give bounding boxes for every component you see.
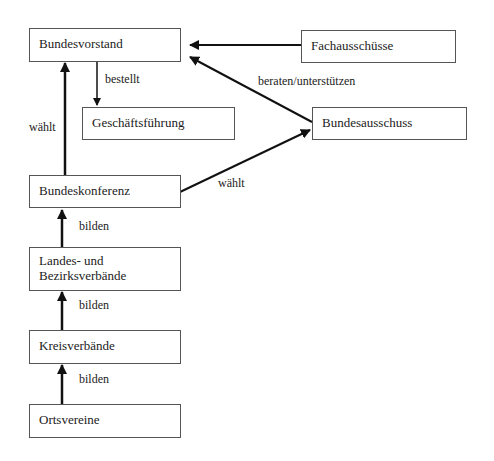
node-landes-bezirksverbaende: Landes- und Bezirksverbände [29,247,181,291]
node-fachausschuesse: Fachausschüsse [301,30,456,63]
node-label: Bundesausschuss [322,115,412,130]
node-bundeskonferenz: Bundeskonferenz [29,175,181,208]
edge-label-waehlt-left: wählt [29,120,56,135]
edge-label-bilden-3: bilden [79,372,109,387]
connector-arrows [0,0,494,461]
node-label: Ortsvereine [39,412,100,427]
edge-label-bilden-2: bilden [79,298,109,313]
node-bundesvorstand: Bundesvorstand [29,28,181,62]
edge-label-beraten: beraten/unterstützen [258,74,355,89]
node-label: Geschäftsführung [92,115,184,130]
edge-label-waehlt-right: wählt [218,176,245,191]
node-label-line2: Bezirksverbände [39,268,180,283]
node-label: Kreisverbände [39,338,115,353]
edge-label-bilden-1: bilden [79,219,109,234]
node-label: Bundeskonferenz [39,183,130,198]
node-label-line1: Landes- und [39,253,180,268]
node-bundesausschuss: Bundesausschuss [312,107,467,140]
node-label: Bundesvorstand [39,36,123,51]
node-ortsvereine: Ortsvereine [29,404,181,438]
node-kreisverbaende: Kreisverbände [29,330,181,364]
edge-label-bestellt: bestellt [105,72,140,87]
node-geschaeftsfuehrung: Geschäftsführung [82,107,235,140]
node-label: Fachausschüsse [311,38,393,53]
